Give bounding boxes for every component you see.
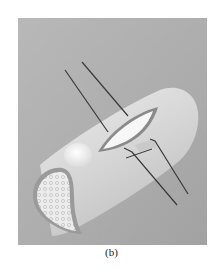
nodule [64, 143, 92, 167]
figure-caption: (b) [0, 246, 223, 258]
figure-illustration [0, 0, 223, 270]
